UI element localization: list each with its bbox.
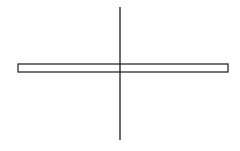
horizontal-bar (18, 64, 228, 72)
diagram-canvas (0, 0, 240, 151)
